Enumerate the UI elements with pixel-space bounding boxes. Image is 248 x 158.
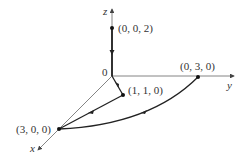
z-direction-arrow-icon [110,50,115,55]
origin-label: 0 [102,67,108,78]
x-axis-label: x [30,143,35,154]
point-002 [110,26,114,30]
point-label-300: (3, 0, 0) [16,124,51,135]
point-110 [121,93,125,97]
y-axis-label: y [227,80,232,91]
point-label-002: (0, 0, 2) [118,23,153,34]
point-label-110: (1, 1, 0) [128,85,163,96]
z-axis-label: z [103,6,107,17]
point-label-030: (0, 3, 0) [180,61,215,72]
point-030 [196,75,200,79]
point-300 [57,127,61,131]
x-axis [38,76,112,150]
segment-arrow-icon [115,82,119,88]
